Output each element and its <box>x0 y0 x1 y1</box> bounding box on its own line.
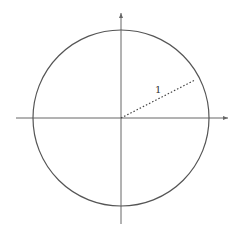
radius-label: 1 <box>155 84 161 95</box>
unit-circle-diagram: 1 <box>0 0 235 234</box>
